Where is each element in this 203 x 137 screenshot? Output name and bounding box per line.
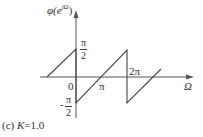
x-axis-arrow-icon <box>186 75 194 80</box>
tick-pos-half-pi: π 2 <box>80 38 87 61</box>
tick-neg-half-pi: π 2 <box>65 95 72 118</box>
x-axis-label: Ω <box>184 81 192 92</box>
tick-neg-sign: - <box>60 100 63 110</box>
plot-canvas <box>0 0 203 137</box>
origin-label: 0 <box>68 81 74 92</box>
y-axis-label: φ(ejΩ) <box>47 4 72 16</box>
tick-pi: π <box>99 81 105 92</box>
y-axis-arrow-icon <box>74 10 79 18</box>
tick-two-pi: 2π <box>129 66 140 77</box>
figure-caption: (c) K=1.0 <box>2 120 44 131</box>
phase-response-figure: φ(ejΩ) π 2 0 π 2π Ω - π 2 (c) K=1.0 <box>0 0 203 137</box>
